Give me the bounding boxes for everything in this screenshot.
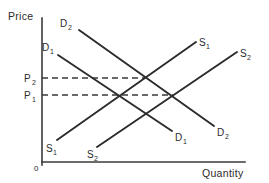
curve-label-s2-bottom: S 2	[87, 149, 98, 162]
curve-label-d2-top: D 2	[60, 18, 72, 31]
curve-label-d1-bottom-base: D	[175, 132, 182, 143]
curve-label-s1-bottom-sub: 1	[53, 149, 57, 156]
curve-label-s2-top-sub: 2	[247, 54, 251, 61]
price-label-p2: P 2	[24, 73, 36, 86]
price-label-p2-base: P	[24, 73, 31, 84]
curve-label-s1-top-sub: 1	[206, 43, 210, 50]
curve-label-s1-bottom-base: S	[46, 143, 53, 154]
curve-label-d2-top-base: D	[60, 18, 67, 29]
curve-label-s1-bottom: S 1	[46, 143, 57, 156]
curve-label-d2-bottom: D 2	[217, 127, 229, 140]
curve-label-d1-bottom-sub: 1	[183, 138, 187, 145]
price-label-p1-base: P	[24, 90, 31, 101]
curve-label-s2-top: S 2	[240, 48, 251, 61]
supply-curve-s1	[57, 42, 196, 140]
chart-canvas: Price Quantity 0 P 2 P 1 D 1 D 1 D 2	[0, 0, 269, 183]
curve-label-d2-top-sub: 2	[68, 24, 72, 31]
price-label-p2-sub: 2	[32, 79, 36, 86]
curve-label-d1-top-sub: 1	[50, 48, 54, 55]
price-label-p1: P 1	[24, 90, 36, 103]
price-label-p1-sub: 1	[32, 96, 36, 103]
supply-curve-s2	[97, 52, 237, 147]
curve-label-d1-top: D 1	[42, 42, 54, 55]
curve-label-d2-bottom-base: D	[217, 127, 224, 138]
origin-label: 0	[34, 164, 39, 173]
supply-demand-diagram: Price Quantity 0 P 2 P 1 D 1 D 1 D 2	[0, 0, 269, 183]
curve-label-s1-top: S 1	[199, 37, 210, 50]
curve-label-d1-bottom: D 1	[175, 132, 187, 145]
x-axis-title: Quantity	[202, 167, 244, 179]
demand-curve-d1	[58, 55, 172, 131]
curve-label-s2-top-base: S	[240, 48, 247, 59]
curve-label-s1-top-base: S	[199, 37, 206, 48]
curve-label-s2-bottom-base: S	[87, 149, 94, 160]
curve-label-s2-bottom-sub: 2	[94, 155, 98, 162]
curve-label-d1-top-base: D	[42, 42, 49, 53]
curve-label-d2-bottom-sub: 2	[225, 133, 229, 140]
y-axis-title: Price	[8, 10, 33, 22]
